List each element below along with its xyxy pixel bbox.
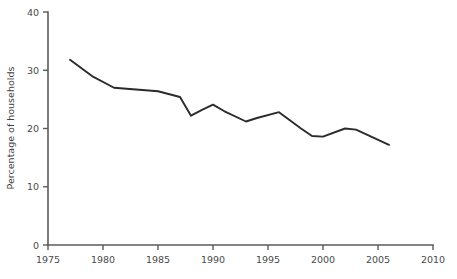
x-tick-label: 1985 — [146, 254, 170, 265]
x-axis: 19751980198519901995200020052010 — [36, 245, 445, 265]
data-series-line — [70, 60, 389, 145]
x-tick-label-group: 19751980198519901995200020052010 — [36, 254, 445, 265]
x-tick-label: 2000 — [311, 254, 335, 265]
x-tick-label: 1990 — [201, 254, 225, 265]
y-tick-label: 20 — [27, 123, 39, 134]
x-tick-label: 1975 — [36, 254, 60, 265]
x-tick-label: 2010 — [421, 254, 445, 265]
y-tick-label: 40 — [27, 7, 39, 18]
y-tick-label: 30 — [27, 65, 39, 76]
y-tick-label-group: 010203040 — [27, 7, 39, 251]
x-tick-label: 1995 — [256, 254, 280, 265]
chart-canvas: 010203040 197519801985199019952000200520… — [0, 0, 457, 279]
y-axis: 010203040 — [27, 7, 48, 251]
x-tick-label: 1980 — [91, 254, 115, 265]
y-tick-label: 0 — [33, 240, 39, 251]
x-tick-label: 2005 — [366, 254, 390, 265]
line-chart: 010203040 197519801985199019952000200520… — [0, 0, 457, 279]
y-axis-title: Percentage of households — [5, 67, 16, 190]
y-tick-label: 10 — [27, 181, 39, 192]
